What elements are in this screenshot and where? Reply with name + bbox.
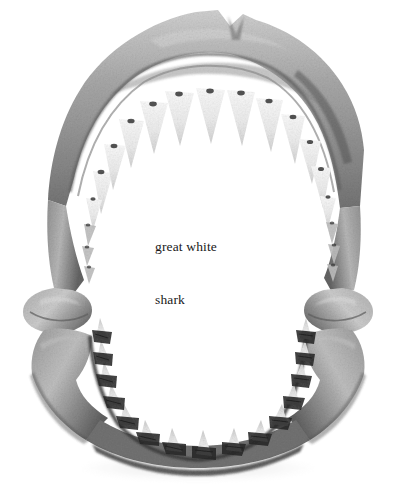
caption-line-1: great white (155, 238, 285, 256)
image-canvas: great white shark (0, 0, 396, 496)
caption-line-2: shark (155, 291, 285, 309)
shark-jaw-photograph: great white shark (0, 0, 396, 496)
specimen-caption: great white shark (155, 203, 285, 343)
